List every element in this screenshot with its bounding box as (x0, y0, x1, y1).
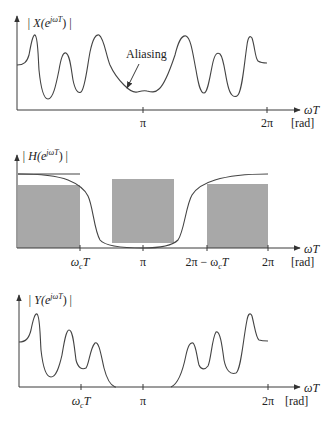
tick-label-2pi: 2π (262, 255, 274, 269)
passband-shade-low (18, 185, 80, 248)
tick-label-pi: π (140, 394, 146, 408)
x-axis-unit: [rad] (291, 116, 314, 130)
tick-label-wc: ωcT (72, 394, 92, 410)
output-spectrum-curve-high (171, 314, 268, 387)
passband-shade-high (207, 184, 268, 248)
y-axis-label: | Y(ejωT) | (28, 292, 72, 307)
output-spectrum-panel: | Y(ejωT) | ωcT π 2π ωT [rad] (19, 292, 320, 410)
tick-label-pi: π (140, 116, 146, 130)
aliasing-arrow-icon (127, 64, 139, 88)
aliasing-annotation: Aliasing (126, 47, 167, 61)
output-spectrum-curve-low (19, 314, 116, 387)
x-axis-label: ωT (304, 242, 320, 256)
x-axis-unit: [rad] (291, 255, 314, 269)
aliased-band-shade (112, 179, 174, 243)
tick-label-2pi: 2π (261, 116, 273, 130)
tick-label-2pi: 2π (262, 394, 274, 408)
y-axis-label: | X(ejωT) | (27, 15, 72, 30)
y-axis-label: | H(ejωT) | (22, 148, 68, 163)
tick-label-pi: π (140, 255, 146, 269)
tick-label-wc: ωcT (71, 255, 91, 271)
input-spectrum-panel: | X(ejωT) | Aliasing π 2π ωT [rad] (17, 15, 320, 130)
x-axis-label: ωT (304, 103, 320, 117)
aliasing-filter-diagram: | X(ejωT) | Aliasing π 2π ωT [rad] | H(e… (0, 0, 334, 421)
tick-label-2pi-minus-wc: 2π − ωcT (186, 255, 230, 271)
input-spectrum-curve (17, 35, 267, 99)
filter-response-panel: | H(ejωT) | ωcT π 2π − ωcT 2π ωT [rad] (17, 148, 320, 271)
x-axis-label: ωT (304, 381, 320, 395)
x-axis-unit: [rad] (285, 394, 308, 408)
